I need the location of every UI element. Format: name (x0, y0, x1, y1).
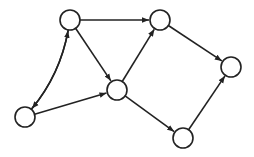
edge-C-to-D (122, 29, 154, 81)
edge-D-to-E (168, 26, 221, 61)
edge-A-to-C (76, 28, 111, 81)
nodes-layer (15, 10, 241, 148)
edge-C-to-F (125, 96, 174, 132)
node-F (173, 128, 193, 148)
edge-B-to-C (35, 93, 107, 114)
edges-layer (31, 20, 224, 132)
node-E (221, 57, 241, 77)
directed-graph (0, 0, 254, 157)
node-A (60, 10, 80, 30)
edge-F-to-E (189, 76, 225, 130)
node-C (107, 80, 127, 100)
edge-B-to-A (31, 31, 68, 109)
edge-A-to-B (32, 30, 68, 109)
node-D (150, 10, 170, 30)
node-B (15, 107, 35, 127)
